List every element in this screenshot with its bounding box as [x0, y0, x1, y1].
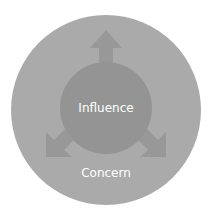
concern-label: Concern	[56, 166, 156, 180]
influence-label: Influence	[56, 101, 156, 115]
